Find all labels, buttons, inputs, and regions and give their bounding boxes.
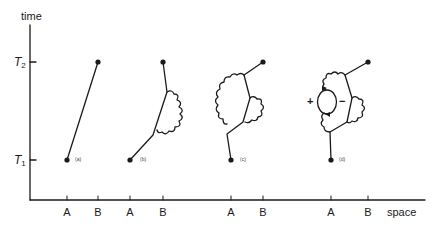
x-tick-label-b2: B [159,207,166,218]
photon-line-c-small [245,97,264,123]
y-axis-title: time [21,11,42,22]
x-tick-label-a1: A [63,207,70,218]
event-dot-c-t2 [260,59,265,64]
event-dot-d-t2 [365,59,370,64]
photon-line-d-upper [323,72,345,90]
diagram-drawing [0,0,440,232]
panel-label-a: (a) [75,157,81,162]
panel-c-diagram [216,62,264,160]
spacetime-diagram: time space T2 T1 A B A B A B A B (a) (b)… [0,0,440,232]
event-dot-a-t2 [95,59,100,64]
event-dot-b-t1 [127,157,132,162]
event-dot-d-t1 [328,157,333,162]
electron-positron-loop [318,90,337,114]
y-tick-label-t1: T1 [14,154,26,168]
plus-sign: + [307,96,313,107]
x-tick-label-b3: B [259,207,266,218]
x-tick-label-b1: B [94,207,101,218]
x-tick-label-b4: B [364,207,371,218]
photon-line-c-large [216,74,245,125]
panel-label-b: (b) [140,157,146,162]
panel-label-c: (c) [240,157,246,162]
y-tick-label-t2: T2 [14,56,26,70]
panel-label-d: (d) [339,157,345,162]
x-tick-label-a4: A [327,207,334,218]
event-dot-a-t1 [64,157,69,162]
panel-a-diagram [67,62,98,160]
panel-b-diagram [130,62,182,160]
x-axis-title: space [387,207,416,218]
event-dot-b-t2 [160,59,165,64]
minus-sign: − [339,96,345,107]
panel-d-diagram [318,62,369,160]
x-tick-label-a3: A [227,207,234,218]
x-tick-label-a2: A [126,207,133,218]
event-dot-c-t1 [228,157,233,162]
